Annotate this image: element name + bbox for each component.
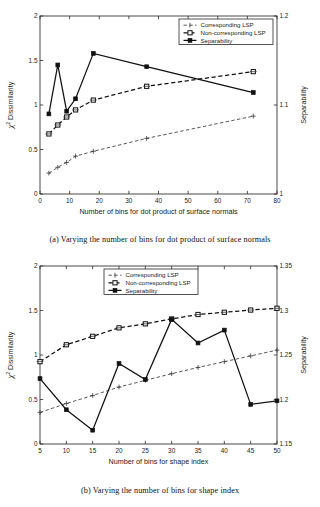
figure-b-caption: (b) Varying the number of bins for shape… xyxy=(0,486,320,495)
y-tick-label-right: 1.25 xyxy=(280,351,293,358)
x-axis-title: Number of bins for shape index xyxy=(109,457,209,466)
data-point-marker xyxy=(145,65,149,69)
data-point-marker xyxy=(91,51,95,55)
figure-a-caption: (a) Varying the number of bins for dot p… xyxy=(0,235,320,244)
x-tick-label: 25 xyxy=(142,447,150,454)
chart-legend[interactable]: Corresponding LSPNon-corresponding LSPSe… xyxy=(104,269,198,295)
y-axis-title-right: Separability xyxy=(299,86,308,124)
y-tick-label-right: 1.15 xyxy=(280,440,293,447)
x-axis-title: Number of bins for dot product of surfac… xyxy=(79,207,238,216)
y-tick-label-left: 0.5 xyxy=(29,396,38,403)
x-tick-label: 20 xyxy=(96,197,104,204)
legend-item-label: Separability xyxy=(126,287,159,294)
x-tick-label: 30 xyxy=(125,197,133,204)
data-point-marker xyxy=(47,112,51,116)
x-tick-label: 40 xyxy=(221,447,229,454)
x-tick-label: 70 xyxy=(244,197,252,204)
legend-sample-marker xyxy=(113,281,117,285)
series-line-non-corresponding-lsp xyxy=(49,72,253,134)
y-tick-label-left: 0.5 xyxy=(29,146,38,153)
data-point-marker xyxy=(249,402,253,406)
legend-item-label: Corresponding LSP xyxy=(201,21,254,28)
data-point-marker xyxy=(74,97,78,101)
y-tick-label-left: 1 xyxy=(34,351,38,358)
figure-b: 510152025303540455000.511.521.151.21.251… xyxy=(0,250,320,507)
data-point-marker xyxy=(170,318,174,322)
legend-sample-marker xyxy=(188,39,192,43)
figure-a: 0102030405060708000.511.5211.11.2Number … xyxy=(0,0,320,252)
svg-text:Separability: Separability xyxy=(299,86,308,124)
x-tick-label: 50 xyxy=(185,197,193,204)
x-tick-label: 30 xyxy=(168,447,176,454)
legend-item-label: Corresponding LSP xyxy=(126,271,179,278)
series-line-separability xyxy=(40,319,277,430)
x-tick-label: 15 xyxy=(89,447,97,454)
x-tick-label: 40 xyxy=(155,197,163,204)
y-tick-label-left: 0 xyxy=(34,190,38,197)
legend-sample-marker xyxy=(113,289,117,293)
y-axis-title-left: χ2 Dissimilarity xyxy=(6,81,15,129)
svg-text:χ2 Dissimilarity: χ2 Dissimilarity xyxy=(6,331,15,379)
x-tick-label: 80 xyxy=(273,197,281,204)
y-tick-label-left: 1.5 xyxy=(29,307,38,314)
x-tick-label: 5 xyxy=(38,447,42,454)
data-point-marker xyxy=(91,428,95,432)
x-tick-label: 45 xyxy=(247,447,255,454)
y-tick-label-left: 2 xyxy=(34,12,38,19)
y-tick-label-left: 1 xyxy=(34,101,38,108)
data-point-marker xyxy=(56,63,60,67)
series-line-corresponding-lsp xyxy=(40,350,277,412)
chart-b-plot-area: 510152025303540455000.511.521.151.21.251… xyxy=(0,250,320,472)
chart-legend[interactable]: Corresponding LSPNon-corresponding LSPSe… xyxy=(179,19,273,45)
x-tick-label: 60 xyxy=(214,197,222,204)
series-line-corresponding-lsp xyxy=(49,116,253,173)
data-point-marker xyxy=(275,399,279,403)
legend-item-label: Non-corresponding LSP xyxy=(201,29,266,36)
series-line-separability xyxy=(49,53,253,114)
series-line-non-corresponding-lsp xyxy=(40,308,277,361)
data-point-marker xyxy=(117,362,121,366)
y-tick-label-right: 1.2 xyxy=(280,12,289,19)
x-tick-label: 35 xyxy=(194,447,202,454)
chart-b-svg: 510152025303540455000.511.521.151.21.251… xyxy=(0,250,320,472)
svg-text:Separability: Separability xyxy=(299,336,308,374)
x-tick-label: 10 xyxy=(66,197,74,204)
data-point-marker xyxy=(143,378,147,382)
chart-a-svg: 0102030405060708000.511.5211.11.2Number … xyxy=(0,0,320,222)
y-tick-label-right: 1.3 xyxy=(280,307,289,314)
data-point-marker xyxy=(38,377,42,381)
y-axis-title-right: Separability xyxy=(299,336,308,374)
y-tick-label-left: 2 xyxy=(34,262,38,269)
y-axis-title-left: χ2 Dissimilarity xyxy=(6,331,15,379)
x-tick-label: 50 xyxy=(273,447,281,454)
y-tick-label-left: 0 xyxy=(34,440,38,447)
y-tick-label-right: 1.35 xyxy=(280,262,293,269)
y-tick-label-right: 1.1 xyxy=(280,101,289,108)
legend-sample-marker xyxy=(188,31,192,35)
y-tick-label-right: 1.2 xyxy=(280,396,289,403)
y-tick-label-left: 1.5 xyxy=(29,57,38,64)
data-point-marker xyxy=(64,408,68,412)
data-point-marker xyxy=(65,109,69,113)
chart-a-plot-area: 0102030405060708000.511.5211.11.2Number … xyxy=(0,0,320,222)
x-tick-label: 10 xyxy=(63,447,71,454)
legend-item-label: Separability xyxy=(201,37,234,44)
data-point-marker xyxy=(222,328,226,332)
svg-text:χ2 Dissimilarity: χ2 Dissimilarity xyxy=(6,81,15,129)
data-point-marker xyxy=(196,341,200,345)
y-tick-label-right: 1 xyxy=(280,190,284,197)
legend-item-label: Non-corresponding LSP xyxy=(126,279,191,286)
x-tick-label: 0 xyxy=(38,197,42,204)
data-point-marker xyxy=(251,91,255,95)
x-tick-label: 20 xyxy=(115,447,123,454)
